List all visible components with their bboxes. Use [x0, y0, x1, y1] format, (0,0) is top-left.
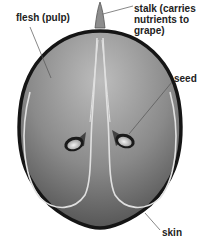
- grape-skin: [19, 31, 181, 228]
- leader-skin: [145, 213, 160, 230]
- label-stalk: stalk (carries nutrients to grape): [134, 3, 196, 36]
- label-flesh: flesh (pulp): [16, 12, 70, 23]
- leader-stalk: [103, 6, 133, 14]
- label-skin: skin: [162, 227, 182, 238]
- stalk: [95, 2, 105, 28]
- grape-diagram: [0, 0, 201, 246]
- label-seed: seed: [174, 73, 197, 84]
